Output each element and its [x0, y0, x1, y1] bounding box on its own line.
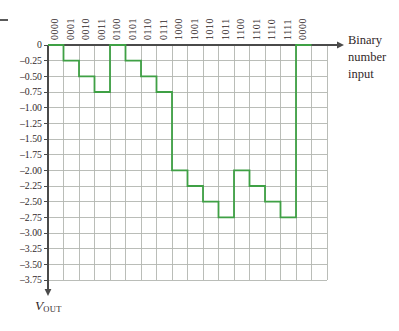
y-tick-label: –2.00	[19, 165, 42, 176]
binary-input-label: 0010	[80, 18, 91, 40]
binary-input-label: 0111	[158, 19, 169, 40]
y-tick-label: –0.25	[19, 55, 42, 66]
x-axis-label: Binary number input	[348, 32, 398, 83]
dac-staircase-chart: 0–0.25–0.50–0.75–1.00–1.25–1.50–1.75–2.0…	[0, 0, 399, 331]
binary-input-label: 0100	[111, 18, 122, 40]
y-tick-label: –1.50	[19, 133, 42, 144]
dac-output-figure: 0–0.25–0.50–0.75–1.00–1.25–1.50–1.75–2.0…	[0, 0, 399, 331]
binary-input-label: 0001	[65, 18, 76, 40]
dac-output-waveform	[48, 45, 312, 217]
x-axis-label-line-2: number	[348, 49, 398, 66]
binary-input-label: 1100	[235, 18, 246, 40]
binary-input-label: 1101	[251, 18, 262, 40]
binary-input-label: 1010	[204, 18, 215, 40]
x-axis-label-line-3: input	[348, 66, 398, 83]
y-tick-label: –3.00	[19, 227, 42, 238]
binary-input-label: 0101	[127, 18, 138, 40]
y-tick-label: –2.50	[19, 196, 42, 207]
binary-input-label: 1111	[282, 19, 293, 40]
y-tick-label: –1.00	[19, 102, 42, 113]
y-axis-variable: V	[35, 298, 43, 313]
binary-input-label: 1001	[189, 18, 200, 40]
y-tick-label: –2.75	[19, 212, 42, 223]
binary-input-label: 0000	[297, 18, 308, 40]
y-tick-label: –2.25	[19, 180, 42, 191]
x-axis-arrow-icon	[337, 42, 344, 49]
y-tick-label: –0.50	[19, 71, 42, 82]
y-axis-arrow-icon	[45, 289, 52, 296]
y-tick-label: 0	[37, 39, 42, 50]
binary-input-label: 1110	[266, 19, 277, 40]
y-tick-label: –3.50	[19, 259, 42, 270]
y-tick-label: –1.25	[19, 118, 42, 129]
y-axis-subscript: OUT	[43, 304, 61, 314]
y-tick-label: –1.75	[19, 149, 42, 160]
binary-input-label: 1011	[220, 18, 231, 40]
x-axis-label-line-1: Binary	[348, 32, 398, 49]
binary-input-label: 0110	[142, 18, 153, 40]
y-tick-label: –3.25	[19, 243, 42, 254]
binary-input-label: 1000	[173, 18, 184, 40]
binary-input-label: 0000	[49, 18, 60, 40]
y-axis-label: VOUT	[35, 298, 62, 314]
y-tick-label: –0.75	[19, 86, 42, 97]
binary-input-label: 0011	[96, 18, 107, 40]
y-tick-label: –3.75	[19, 274, 42, 285]
